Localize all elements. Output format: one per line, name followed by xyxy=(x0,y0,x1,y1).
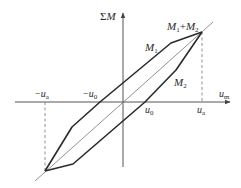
x-axis-label: um xyxy=(219,88,230,101)
u0-label: u0 xyxy=(145,104,154,117)
diagram-canvas: ΣM um M1+M2 M1 M2 −ua −u0 u0 xyxy=(0,0,241,188)
sum-label: M1+M2 xyxy=(166,20,199,34)
m2-label: M2 xyxy=(173,76,187,90)
m1-label: M1 xyxy=(144,41,158,55)
y-axis-label: ΣM xyxy=(100,10,116,22)
neg-u0-label: −u0 xyxy=(83,88,98,101)
neg-ua-label: −ua xyxy=(35,88,50,101)
ua-label: ua xyxy=(197,104,206,117)
hysteresis-diagram: ΣM um M1+M2 M1 M2 −ua −u0 u0 xyxy=(0,0,241,188)
